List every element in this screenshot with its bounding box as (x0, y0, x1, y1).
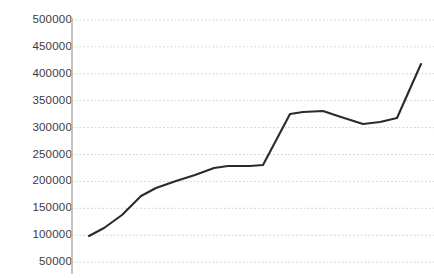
y-axis-line-layer (0, 0, 434, 280)
line-chart: 5000004500004000003500003000002500002000… (0, 0, 434, 280)
y-axis-svg (0, 0, 434, 280)
